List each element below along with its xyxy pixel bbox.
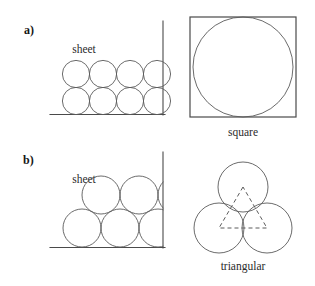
packing-circle (143, 60, 170, 87)
panel-a-sheet-diagram: sheet (50, 21, 171, 115)
inscribed-circle (193, 17, 293, 117)
square-unit-cell-label: square (228, 126, 258, 139)
packing-circle (62, 87, 89, 114)
panel-a-circle-row-bottom (62, 87, 170, 114)
panel-b: b) sheet (23, 152, 292, 273)
panel-b-sheet-diagram: sheet (50, 152, 196, 248)
panel-b-circle-rows (63, 176, 196, 247)
packing-circle (101, 209, 139, 247)
panel-a-letter: a) (24, 23, 34, 37)
panel-b-sheet-label: sheet (72, 173, 96, 185)
packing-circle (158, 176, 196, 214)
packing-circle (143, 87, 170, 114)
panel-a-circle-row-top (62, 60, 170, 87)
packing-circle (82, 176, 120, 214)
packing-circle (89, 87, 116, 114)
packing-circle (62, 60, 89, 87)
square-unit-cell-box (190, 17, 296, 117)
panel-b-unit-cell: triangular (194, 162, 292, 273)
panel-a-unit-cell: square (190, 17, 296, 139)
packing-figure: a) sheet (0, 0, 315, 286)
packing-circle (116, 60, 143, 87)
panel-a-sheet-label: sheet (72, 43, 96, 55)
packing-circle (89, 60, 116, 87)
packing-circle (139, 209, 177, 247)
triangular-unit-cell-label: triangular (221, 260, 266, 273)
packing-circle (116, 87, 143, 114)
packing-circle (120, 176, 158, 214)
figure-canvas: a) sheet (0, 0, 315, 286)
panel-a: a) sheet (24, 17, 296, 139)
panel-b-letter: b) (23, 153, 34, 167)
packing-circle (63, 209, 101, 247)
